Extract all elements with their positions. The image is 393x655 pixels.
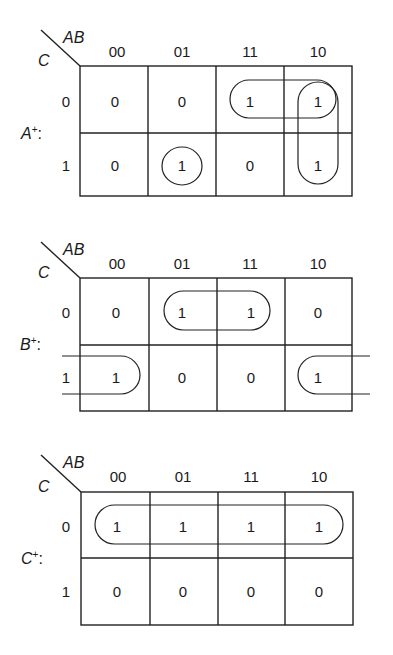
kmap-b-plus: AB C 00 01 11 10 0 1 B+: 0 1 1 0 1 0 0 1 [20,241,370,411]
cell: 0 [111,93,119,110]
row-header: 1 [62,369,70,386]
kmap-figure: AB C 00 01 11 10 0 1 A+: 0 0 1 1 0 1 0 1… [0,0,393,655]
cell: 1 [315,518,323,535]
map-title: C+: [21,549,43,567]
row-header: 1 [62,157,70,174]
cell: 1 [112,369,120,386]
cell: 0 [113,583,121,600]
cell: 1 [178,304,186,321]
cell: 1 [314,369,322,386]
row-header: 1 [62,583,70,600]
cell: 0 [246,157,254,174]
col-header: 10 [310,43,327,60]
kmap-a-plus: AB C 00 01 11 10 0 1 A+: 0 0 1 1 0 1 0 1 [20,29,352,196]
kmap-c-plus: AB C 00 01 11 10 0 1 C+: 1 1 1 1 0 0 0 0 [21,454,353,625]
cell: 0 [314,304,322,321]
cell: 0 [178,93,186,110]
col-header: 10 [311,468,328,485]
cell: 0 [178,369,186,386]
map-title: B+: [20,335,41,353]
cell: 0 [247,369,255,386]
cell: 0 [315,583,323,600]
cell: 1 [178,157,186,174]
col-header: 00 [109,43,126,60]
cell: 0 [179,583,187,600]
cell: 1 [113,518,121,535]
row-var-label: C [38,52,50,69]
col-header: 01 [174,43,191,60]
col-header: 01 [175,468,192,485]
col-var-label: AB [62,454,85,471]
group-loop [95,505,343,544]
group-loop-wrap-right [298,356,370,394]
col-header: 11 [242,255,258,272]
map-title: A+: [20,124,42,142]
col-header: 01 [174,255,191,272]
row-var-label: C [38,478,50,495]
cell: 1 [246,93,254,110]
cell: 1 [314,93,322,110]
row-header: 0 [62,304,70,321]
cell: 1 [314,157,322,174]
cell: 0 [111,157,119,174]
col-header: 00 [109,255,126,272]
cell: 1 [247,518,255,535]
cell: 1 [247,304,255,321]
group-loop-wrap-left [62,356,140,394]
cell: 1 [179,518,187,535]
cell: 0 [247,583,255,600]
cell: 0 [112,304,120,321]
row-header: 0 [62,518,70,535]
col-var-label: AB [62,241,85,258]
col-var-label: AB [62,29,85,46]
col-header: 00 [110,468,127,485]
col-header: 10 [310,255,327,272]
row-header: 0 [62,93,70,110]
col-header: 11 [242,43,258,60]
row-var-label: C [38,264,50,281]
col-header: 11 [243,468,259,485]
